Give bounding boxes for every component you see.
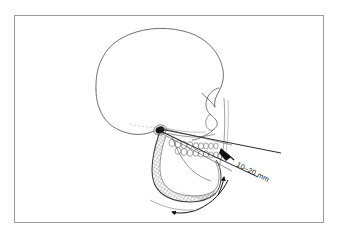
mandibular-ramus-hatching — [152, 134, 215, 202]
measurement-label: 10–20 mm — [235, 160, 271, 184]
cranium-outline — [96, 28, 223, 134]
skull-diagram: 10–20 mm — [0, 0, 343, 238]
measurement-label-group: 10–20 mm — [235, 160, 271, 184]
